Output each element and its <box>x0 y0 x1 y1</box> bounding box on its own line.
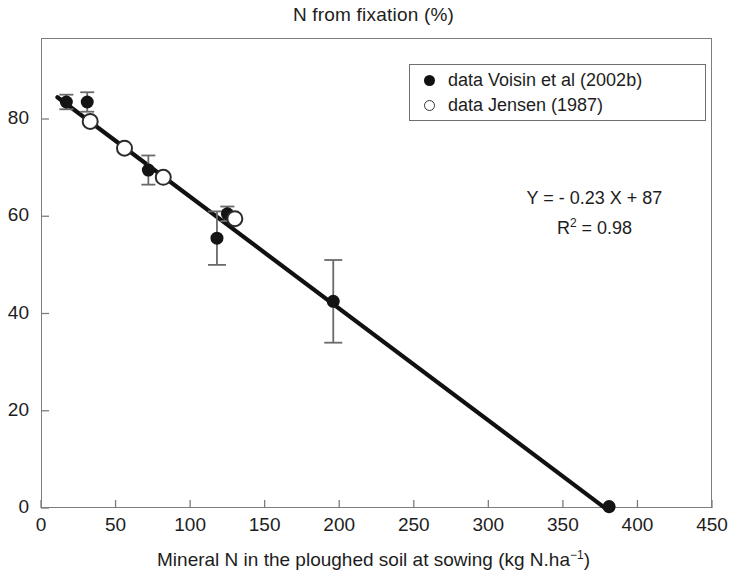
legend-item-jensen: data Jensen (1987) <box>410 92 603 118</box>
legend-item-label: data Voisin et al (2002b) <box>448 70 642 91</box>
open-circle-icon <box>410 100 448 111</box>
y-tick-label: 60 <box>0 204 29 226</box>
x-axis-label-main: Mineral N in the ploughed soil at sowing… <box>157 549 570 570</box>
x-tick-label: 50 <box>86 514 146 536</box>
figure: N from fixation (%) 020406080 0501001502… <box>0 0 747 581</box>
y-tick-label: 20 <box>0 399 29 421</box>
legend-item-voisin: data Voisin et al (2002b) <box>410 67 642 93</box>
x-tick-label: 250 <box>384 514 444 536</box>
x-tick-label: 0 <box>11 514 71 536</box>
filled-circle-icon <box>410 75 448 86</box>
x-axis-label: Mineral N in the ploughed soil at sowing… <box>0 548 747 571</box>
regression-equation: Y = - 0.23 X + 87 <box>487 186 702 211</box>
x-tick-label: 350 <box>533 514 593 536</box>
r-squared-prefix: R <box>557 218 570 238</box>
y-tick-label: 40 <box>0 302 29 324</box>
r-squared-superscript: 2 <box>570 216 577 230</box>
y-tick-label: 80 <box>0 107 29 129</box>
legend: data Voisin et al (2002b) data Jensen (1… <box>409 64 706 121</box>
r-squared-value: R2 = 0.98 <box>487 211 702 241</box>
x-tick-label: 300 <box>458 514 518 536</box>
x-tick-label: 400 <box>607 514 667 536</box>
x-tick-label: 200 <box>309 514 369 536</box>
r-squared-number: = 0.98 <box>577 218 633 238</box>
x-tick-label: 100 <box>160 514 220 536</box>
legend-item-label: data Jensen (1987) <box>448 95 603 116</box>
regression-annotation: Y = - 0.23 X + 87 R2 = 0.98 <box>487 186 702 241</box>
chart-title: N from fixation (%) <box>0 4 747 26</box>
x-axis-label-tail: ) <box>584 549 590 570</box>
x-tick-label: 150 <box>235 514 295 536</box>
x-axis-label-superscript: −1 <box>570 548 584 562</box>
x-tick-label: 450 <box>682 514 742 536</box>
